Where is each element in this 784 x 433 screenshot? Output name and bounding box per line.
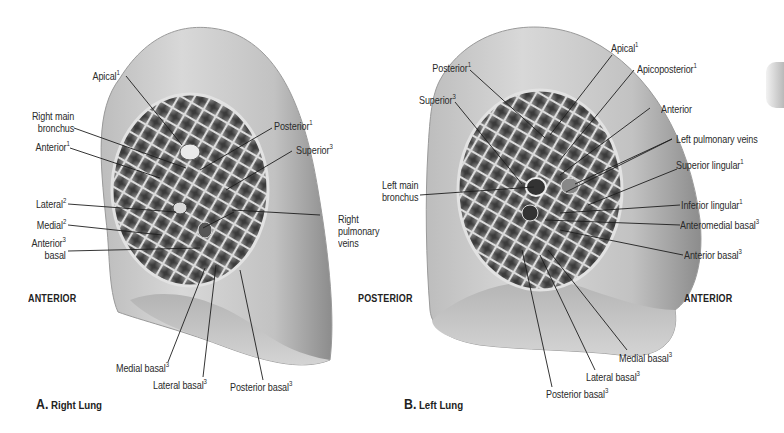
label-superior-left: Superior3	[419, 94, 456, 106]
label-right-pulmonary-veins: Rightpulmonaryveins	[338, 213, 379, 249]
label-superior-lingular: Superior lingular1	[676, 159, 744, 171]
label-right-main-bronchus: Right mainbronchus	[32, 110, 74, 134]
orientation-anterior-a: ANTERIOR	[28, 293, 76, 304]
label-inferior-lingular: Inferior lingular1	[681, 199, 743, 211]
label-anterior-left: Anterior	[661, 103, 692, 115]
label-apical-left: Apical1	[611, 42, 638, 54]
label-lateral: Lateral2	[36, 198, 66, 210]
label-left-pulmonary-veins: Left pulmonary veins	[676, 133, 758, 145]
label-apicoposterior: Apicoposterior1	[637, 63, 697, 75]
orientation-anterior-b: ANTERIOR	[684, 293, 732, 304]
label-lateral-basal-left: Lateral basal3	[586, 371, 640, 383]
label-anterior-right: Anterior1	[36, 141, 70, 153]
label-posterior-left: Posterior1	[432, 62, 471, 74]
label-apical-right: Apical1	[93, 70, 120, 82]
orientation-posterior-b: POSTERIOR	[358, 293, 413, 304]
label-medial-basal-left: Medial basal3	[619, 352, 672, 364]
label-medial: Medial2	[37, 219, 66, 231]
label-lateral-basal-right: Lateral basal3	[153, 379, 207, 391]
page-edge-tab	[766, 62, 784, 108]
label-posterior-basal-right: Posterior basal3	[230, 381, 292, 393]
label-anterior-basal-left: Anterior basal3	[684, 249, 742, 261]
label-posterior-basal-left: Posterior basal3	[546, 388, 608, 400]
right-lung	[101, 27, 332, 365]
label-medial-basal-right: Medial basal3	[116, 362, 169, 374]
caption-right-lung: A.Right Lung	[36, 396, 102, 412]
label-anteromedial-basal: Anteromedial basal3	[680, 219, 759, 231]
caption-left-lung: B.Left Lung	[404, 396, 463, 412]
label-left-main-bronchus: Left mainbronchus	[382, 179, 418, 203]
label-posterior-right: Posterior1	[274, 120, 313, 132]
label-anterior-basal-right: Anterior3basal	[32, 237, 66, 261]
label-superior-right: Superior3	[296, 144, 333, 156]
